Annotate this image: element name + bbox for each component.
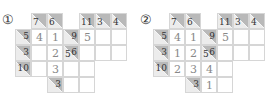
answer-cell[interactable] — [79, 45, 95, 61]
cell-value — [96, 46, 111, 61]
clue-cell: 3 — [185, 77, 201, 93]
answer-cell[interactable]: 5 — [79, 29, 95, 45]
across-clue-number: 3 — [23, 48, 29, 57]
answer-cell[interactable] — [249, 29, 265, 45]
across-clue-number: 3 — [193, 80, 199, 89]
across-clue-number: 9 — [71, 32, 77, 41]
across-clue-number: 3 — [161, 48, 167, 57]
down-clue-number: 5 — [203, 50, 209, 59]
down-clue-number: 6 — [187, 18, 193, 27]
cell-value: 1 — [170, 46, 185, 61]
clue-cell: 9 — [63, 29, 79, 45]
cell-value — [80, 62, 95, 77]
answer-cell[interactable]: 1 — [185, 29, 201, 45]
cell-value: 3 — [48, 62, 63, 77]
down-clue-number: 5 — [65, 50, 71, 59]
cell-value — [32, 46, 47, 61]
answer-cell[interactable] — [79, 61, 95, 77]
down-clue-number: 11 — [81, 18, 92, 27]
answer-cell[interactable]: 3 — [47, 61, 63, 77]
clue-cell: 10 — [15, 61, 31, 77]
down-clue-number: 7 — [33, 18, 39, 27]
answer-cell[interactable] — [233, 29, 249, 45]
answer-cell[interactable] — [31, 61, 47, 77]
clue-cell: 5 — [153, 29, 169, 45]
across-clue-number: 5 — [23, 32, 29, 41]
cell-value — [250, 46, 265, 61]
clue-cell: 65 — [201, 45, 217, 61]
clue-cell: 7 — [169, 13, 185, 29]
cell-value — [218, 46, 233, 61]
cell-value: 1 — [186, 30, 201, 45]
answer-cell[interactable] — [249, 45, 265, 61]
cell-value — [112, 30, 127, 45]
clue-cell: 9 — [201, 29, 217, 45]
down-clue-number: 6 — [49, 18, 55, 27]
answer-cell[interactable] — [217, 77, 233, 93]
kakuro-puzzle-2: ② 76113454195312651023431 — [138, 0, 276, 106]
answer-cell[interactable] — [95, 29, 111, 45]
answer-cell[interactable]: 2 — [169, 61, 185, 77]
answer-cell[interactable] — [217, 61, 233, 77]
cell-value: 2 — [170, 62, 185, 77]
answer-cell[interactable] — [111, 29, 127, 45]
answer-cell[interactable]: 2 — [47, 45, 63, 61]
clue-cell: 6 — [185, 13, 201, 29]
clue-cell: 4 — [249, 13, 265, 29]
answer-cell[interactable]: 3 — [185, 61, 201, 77]
clue-cell: 4 — [111, 13, 127, 29]
answer-cell[interactable]: 4 — [201, 61, 217, 77]
answer-cell[interactable] — [63, 77, 79, 93]
clue-cell: 65 — [63, 45, 79, 61]
across-clue-number: 6 — [71, 48, 77, 57]
clue-cell: 3 — [95, 13, 111, 29]
across-clue-number: 6 — [209, 48, 215, 57]
down-clue-number: 11 — [219, 18, 230, 27]
answer-cell[interactable] — [79, 77, 95, 93]
answer-cell[interactable] — [233, 45, 249, 61]
answer-cell[interactable] — [63, 61, 79, 77]
down-clue-number: 3 — [235, 18, 241, 27]
puzzle-number-label: ① — [2, 12, 14, 28]
cell-value: 5 — [218, 30, 233, 45]
cell-value — [234, 30, 249, 45]
clue-cell: 5 — [15, 29, 31, 45]
answer-cell[interactable]: 1 — [169, 45, 185, 61]
clue-cell: 3 — [15, 45, 31, 61]
across-clue-number: 5 — [161, 32, 167, 41]
cell-value: 2 — [48, 46, 63, 61]
cell-value — [218, 78, 233, 93]
across-clue-number: 9 — [209, 32, 215, 41]
clue-cell: 6 — [47, 13, 63, 29]
answer-cell[interactable]: 4 — [31, 29, 47, 45]
clue-cell: 7 — [31, 13, 47, 29]
clue-cell: 11 — [79, 13, 95, 29]
answer-cell[interactable]: 2 — [185, 45, 201, 61]
clue-cell: 3 — [153, 45, 169, 61]
cell-value — [234, 46, 249, 61]
down-clue-number: 7 — [171, 18, 177, 27]
clue-cell: 3 — [233, 13, 249, 29]
cell-value — [80, 46, 95, 61]
cell-value: 2 — [186, 46, 201, 61]
clue-cell: 3 — [47, 77, 63, 93]
answer-cell[interactable] — [217, 45, 233, 61]
down-clue-number: 3 — [97, 18, 103, 27]
cell-value — [64, 78, 79, 93]
clue-cell: 11 — [217, 13, 233, 29]
answer-cell[interactable]: 4 — [169, 29, 185, 45]
puzzle-number-label: ② — [140, 12, 152, 28]
clue-cell: 10 — [153, 61, 169, 77]
cell-value — [250, 30, 265, 45]
cell-value: 1 — [202, 78, 217, 93]
answer-cell[interactable] — [111, 45, 127, 61]
cell-value — [32, 62, 47, 77]
answer-cell[interactable] — [31, 45, 47, 61]
down-clue-number: 4 — [113, 18, 119, 27]
answer-cell[interactable]: 5 — [217, 29, 233, 45]
answer-cell[interactable]: 1 — [201, 77, 217, 93]
answer-cell[interactable] — [95, 45, 111, 61]
across-clue-number: 10 — [18, 64, 29, 73]
answer-cell[interactable]: 1 — [47, 29, 63, 45]
across-clue-number: 3 — [55, 80, 61, 89]
